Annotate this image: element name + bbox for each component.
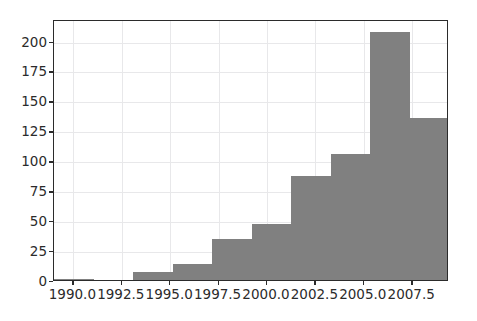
y-axis-tick bbox=[49, 281, 53, 282]
histogram-bars bbox=[54, 21, 447, 280]
x-axis-tick bbox=[121, 281, 122, 285]
histogram-bar bbox=[370, 32, 410, 280]
histogram-bar bbox=[212, 239, 252, 280]
histogram-bar bbox=[133, 272, 173, 280]
histogram-figure: 0255075100125150175200 1990.01992.51995.… bbox=[0, 0, 477, 321]
y-axis-tick-label: 175 bbox=[3, 65, 47, 79]
x-axis-tick bbox=[72, 281, 73, 285]
x-axis-tick bbox=[411, 281, 412, 285]
histogram-bar bbox=[331, 154, 371, 280]
x-axis-tick-label: 2007.5 bbox=[381, 288, 441, 302]
x-axis-tick bbox=[363, 281, 364, 285]
y-axis-tick-label: 75 bbox=[3, 185, 47, 199]
y-axis-tick-label: 25 bbox=[3, 245, 47, 259]
x-axis-tick bbox=[314, 281, 315, 285]
x-axis-tick bbox=[169, 281, 170, 285]
histogram-bar bbox=[54, 279, 94, 280]
histogram-bar bbox=[173, 264, 213, 280]
x-axis-tick bbox=[266, 281, 267, 285]
y-axis-tick-labels: 0255075100125150175200 bbox=[0, 0, 47, 321]
plot-area bbox=[53, 20, 448, 281]
x-axis-tick bbox=[218, 281, 219, 285]
y-axis-tick-label: 0 bbox=[3, 275, 47, 289]
y-axis-tick-label: 150 bbox=[3, 95, 47, 109]
y-axis-tick-label: 125 bbox=[3, 125, 47, 139]
y-axis-tick-label: 100 bbox=[3, 155, 47, 169]
y-axis-tick-label: 50 bbox=[3, 215, 47, 229]
histogram-bar bbox=[410, 118, 449, 280]
histogram-bar bbox=[291, 176, 331, 280]
y-axis-tick-label: 200 bbox=[3, 36, 47, 50]
histogram-bar bbox=[252, 224, 292, 280]
